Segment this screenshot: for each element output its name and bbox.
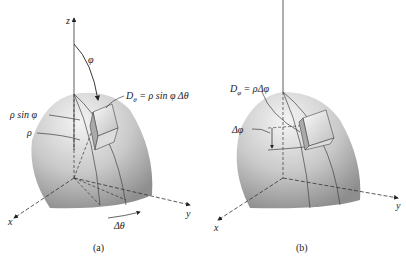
phi-label: φ [88,54,94,65]
delta-theta-label: Δθ [114,220,125,231]
caption-a: (a) [93,242,104,253]
diagram-canvas [0,0,406,267]
x-axis-label-b: x [214,222,218,233]
caption-b: (b) [296,242,308,253]
phi-arc [74,44,98,100]
d-phi-label: Dφ = ρΔφ [230,83,269,97]
sphere-octant-surface [31,93,152,209]
y-axis-label: y [186,208,190,219]
panel-a-figure [14,18,190,218]
delta-theta-arrow [108,212,140,218]
x-axis-label: x [8,216,12,227]
panel-b-figure [218,0,398,220]
y-axis-label-b: y [396,200,400,211]
z-axis-label: z [66,15,70,26]
delta-phi-label: Δφ [232,124,243,135]
sphere-octant-surface-b [237,92,361,208]
rho-label: ρ [27,127,32,138]
rho-sin-phi-label: ρ sin φ [10,109,37,120]
d-theta-label: Dθ = ρ sin φ Δθ [126,90,189,104]
